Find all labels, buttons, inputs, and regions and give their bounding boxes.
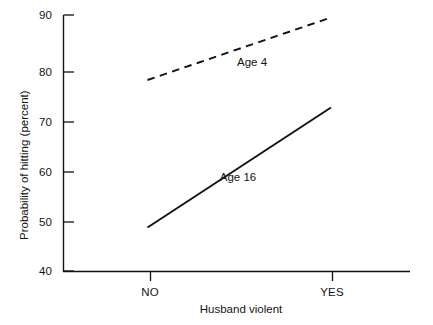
chart-figure: 90 80 70 60 50 40 NO YES Probability of …: [0, 0, 433, 325]
series-line-age-4: [148, 18, 332, 81]
y-axis-ticks: [64, 15, 75, 271]
series-line-age-16: [148, 108, 332, 228]
y-axis-title: Probability of hitting (percent): [18, 90, 30, 240]
x-axis-title: Husband violent: [161, 303, 321, 315]
x-tick-label-no: NO: [120, 286, 180, 298]
chart-canvas: [0, 0, 433, 325]
series-annotation-age-4: Age 4: [237, 56, 267, 68]
x-axis-ticks: [151, 272, 333, 282]
series-annotation-age-16: Age 16: [220, 171, 256, 183]
y-tick-label-40: 40: [22, 265, 52, 277]
y-tick-label-80: 80: [22, 66, 52, 78]
y-tick-label-90: 90: [22, 9, 52, 21]
x-tick-label-yes: YES: [302, 286, 362, 298]
